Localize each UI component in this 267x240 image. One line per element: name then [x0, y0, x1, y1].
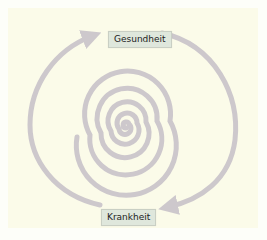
label-krankheit: Krankheit	[101, 209, 156, 226]
diagram-panel: Gesundheit Krankheit	[8, 8, 258, 228]
label-gesundheit: Gesundheit	[108, 31, 172, 48]
